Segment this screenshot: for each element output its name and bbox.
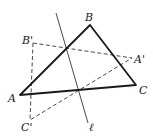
reflection-diagram: B A C B' A' C' ℓ: [0, 0, 153, 139]
label-line-l: ℓ: [89, 121, 94, 134]
label-a-prime: A': [133, 53, 145, 66]
label-c-prime: C': [21, 121, 32, 134]
image-triangle-a-prime-b-prime-c-prime: [30, 43, 132, 120]
label-a: A: [7, 92, 16, 105]
label-b-prime: B': [21, 34, 33, 47]
label-b: B: [84, 11, 93, 24]
mirror-line-l: [56, 13, 88, 123]
original-triangle-abc: [20, 25, 136, 95]
label-c: C: [139, 84, 148, 97]
